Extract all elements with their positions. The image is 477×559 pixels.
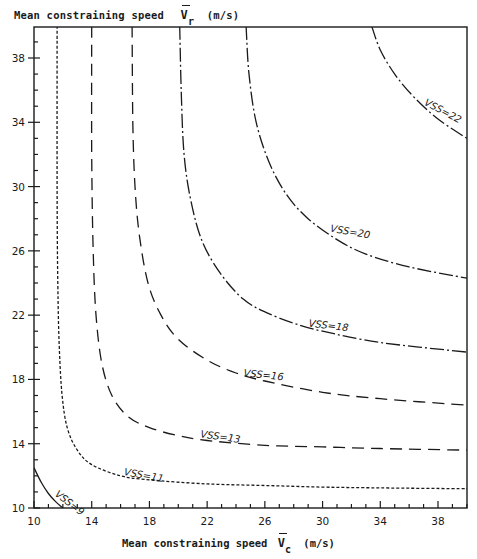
x-tick-label: 18 <box>143 515 156 527</box>
x-tick-label: 22 <box>200 515 213 527</box>
curve-vss-18 <box>180 26 467 352</box>
x-tick-label: 14 <box>85 515 99 527</box>
plot-border <box>34 27 467 508</box>
y-tick-label: 30 <box>12 181 25 193</box>
x-axis-title: Mean constraining speed Vc (m/s) <box>122 536 335 552</box>
contour-chart: 10141822263034381014182226303438 VSS=9VS… <box>0 0 477 559</box>
y-tick-label: 38 <box>12 52 25 64</box>
curve-labels: VSS=9VSS=11VSS=13VSS=16VSS=18VSS=20VSS=2… <box>53 97 463 518</box>
vss-curves <box>34 26 467 508</box>
y-tick-label: 14 <box>12 438 26 450</box>
y-tick-label: 10 <box>12 502 25 514</box>
curve-vss-13 <box>92 26 467 450</box>
curve-label: VSS=9 <box>53 488 87 518</box>
x-axis-symbol: Vc <box>278 536 291 552</box>
x-tick-label: 30 <box>316 515 329 527</box>
curve-label: VSS=16 <box>243 367 284 382</box>
x-tick-label: 38 <box>431 515 444 527</box>
curve-label: VSS=22 <box>423 97 464 126</box>
plot-frame <box>34 27 467 508</box>
x-axis-title-text: Mean constraining speed <box>122 537 267 549</box>
x-axis-unit: (m/s) <box>303 537 335 549</box>
curve-vss-16 <box>132 26 467 405</box>
curve-label: VSS=11 <box>123 466 165 484</box>
x-tick-label: 26 <box>258 515 272 527</box>
y-tick-label: 26 <box>12 245 26 257</box>
curve-vss-20 <box>246 26 467 278</box>
curve-vss-11 <box>57 26 467 489</box>
y-tick-label: 18 <box>12 373 25 385</box>
curve-vss-9 <box>34 468 63 508</box>
curve-label: VSS=20 <box>329 223 371 241</box>
curve-label: VSS=18 <box>308 317 349 333</box>
y-tick-label: 34 <box>12 116 26 128</box>
x-tick-label: 34 <box>374 515 388 527</box>
x-tick-label: 10 <box>27 515 40 527</box>
y-tick-label: 22 <box>12 309 25 321</box>
